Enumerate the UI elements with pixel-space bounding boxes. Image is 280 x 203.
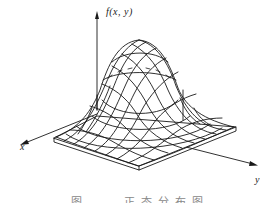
- y-axis: [182, 146, 258, 166]
- x-axis-label: x: [20, 141, 24, 152]
- y-axis-label: y: [255, 174, 259, 185]
- f-axis-label: f(x, y): [106, 6, 133, 17]
- normal-distribution-surface-figure: [0, 0, 280, 203]
- figure-caption: 图 — 正态分布图: [0, 193, 280, 203]
